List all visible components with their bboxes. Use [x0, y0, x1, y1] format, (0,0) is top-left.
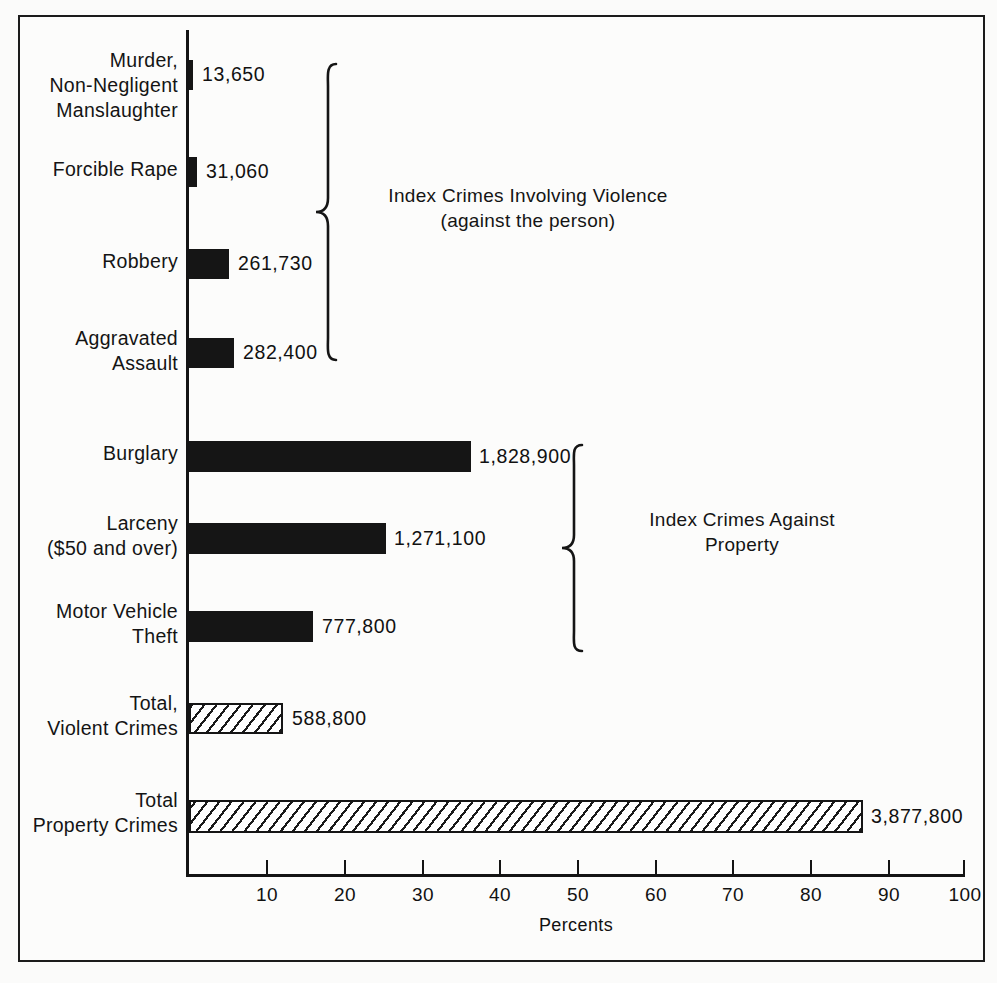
- bar-value-total-property-crimes: 3,877,800: [871, 805, 963, 828]
- bar-value-motor-vehicle-theft: 777,800: [322, 615, 397, 638]
- bar-burglary[interactable]: [189, 441, 471, 472]
- x-axis-tick-30: [422, 860, 424, 874]
- category-label-burglary: Burglary: [103, 441, 178, 466]
- x-axis-tick-40: [499, 860, 501, 874]
- category-label-motor-vehicle-theft: Motor Vehicle Theft: [56, 599, 178, 649]
- bar-robbery[interactable]: [189, 249, 229, 279]
- bar-value-robbery: 261,730: [238, 252, 313, 275]
- x-axis-tick-10: [266, 860, 268, 874]
- x-axis-tick-label-80: 80: [800, 884, 822, 906]
- x-axis-tick-80: [810, 860, 812, 874]
- bar-value-total-violent-crimes: 588,800: [292, 707, 367, 730]
- x-axis-title: Percents: [539, 915, 613, 936]
- x-axis-tick-60: [655, 860, 657, 874]
- bar-chart: 10 20 30 40 50 60 70 80 90 100 Percents …: [0, 0, 997, 983]
- brace-property-crimes: [558, 443, 590, 653]
- group-caption-property-crimes: Index Crimes Against Property: [592, 507, 892, 557]
- x-axis-tick-label-30: 30: [412, 884, 434, 906]
- bar-value-murder: 13,650: [202, 63, 265, 86]
- category-label-murder: Murder, Non-Negligent Manslaughter: [49, 48, 178, 123]
- bar-forcible-rape[interactable]: [189, 157, 197, 187]
- bar-murder[interactable]: [189, 60, 193, 90]
- x-axis-line: [186, 874, 965, 877]
- bar-value-larceny: 1,271,100: [394, 527, 486, 550]
- x-axis-tick-50: [577, 860, 579, 874]
- category-label-total-violent-crimes: Total, Violent Crimes: [47, 691, 178, 741]
- x-axis-tick-label-50: 50: [567, 884, 589, 906]
- bar-larceny[interactable]: [189, 523, 386, 554]
- bar-aggravated-assault[interactable]: [189, 338, 234, 368]
- x-axis-tick-label-90: 90: [878, 884, 900, 906]
- x-axis-tick-90: [888, 860, 890, 874]
- bar-value-forcible-rape: 31,060: [206, 160, 269, 183]
- figure-page: 10 20 30 40 50 60 70 80 90 100 Percents …: [0, 0, 997, 983]
- brace-violent-crimes: [312, 62, 344, 362]
- x-axis-tick-label-10: 10: [256, 884, 278, 906]
- x-axis-tick-label-20: 20: [334, 884, 356, 906]
- bar-motor-vehicle-theft[interactable]: [189, 611, 313, 642]
- category-label-robbery: Robbery: [102, 249, 178, 274]
- category-label-forcible-rape: Forcible Rape: [53, 157, 178, 182]
- category-label-aggravated-assault: Aggravated Assault: [75, 326, 178, 376]
- bar-value-aggravated-assault: 282,400: [243, 341, 318, 364]
- x-axis-tick-100: [963, 860, 965, 874]
- x-axis-tick-label-60: 60: [645, 884, 667, 906]
- category-label-total-property-crimes: Total Property Crimes: [33, 788, 178, 838]
- x-axis-tick-20: [344, 860, 346, 874]
- bar-total-property-crimes[interactable]: [189, 800, 863, 833]
- x-axis-tick-label-40: 40: [489, 884, 511, 906]
- x-axis-tick-70: [732, 860, 734, 874]
- x-axis-tick-label-70: 70: [722, 884, 744, 906]
- group-caption-violent-crimes: Index Crimes Involving Violence (against…: [358, 183, 698, 233]
- bar-total-violent-crimes[interactable]: [189, 703, 283, 734]
- x-axis-tick-label-100: 100: [948, 884, 981, 906]
- category-label-larceny: Larceny ($50 and over): [47, 511, 178, 561]
